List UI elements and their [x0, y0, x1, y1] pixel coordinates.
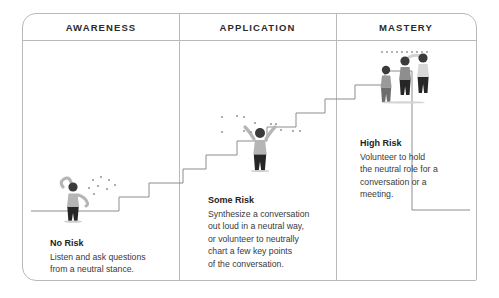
caption-some-risk: Some Risk Synthesize a conversation out …	[208, 194, 358, 270]
column-header-row: AWARENESS APPLICATION MASTERY	[23, 14, 476, 41]
caption-no-risk-title: No Risk	[50, 237, 200, 250]
caption-some-risk-line-5: of the conversation.	[208, 258, 358, 270]
column-header-application-label: APPLICATION	[220, 22, 296, 33]
caption-high-risk-line-2: the neutral role for a	[360, 163, 485, 175]
caption-some-risk-line-3: or volunteer to neutrally	[208, 233, 358, 245]
figure-mastery-right	[409, 53, 429, 93]
caption-high-risk-body: Volunteer to hold the neutral role for a…	[360, 151, 485, 201]
diagram-frame: AWARENESS APPLICATION MASTERY	[22, 13, 477, 281]
caption-no-risk-line-2: from a neutral stance.	[50, 263, 200, 275]
diagram-body: No Risk Listen and ask questions from a …	[23, 41, 476, 280]
figure-mastery-left	[381, 66, 392, 102]
speckle-dots-mastery	[381, 51, 428, 53]
column-header-mastery-label: MASTERY	[379, 22, 433, 33]
diagram-canvas: AWARENESS APPLICATION MASTERY	[0, 0, 499, 298]
caption-no-risk: No Risk Listen and ask questions from a …	[50, 237, 200, 276]
caption-high-risk: High Risk Volunteer to hold the neutral …	[360, 137, 485, 201]
column-header-application: APPLICATION	[179, 14, 336, 40]
caption-some-risk-line-4: chart a few key points	[208, 245, 358, 257]
caption-high-risk-title: High Risk	[360, 137, 485, 150]
caption-high-risk-line-3: conversation or a	[360, 176, 485, 188]
caption-some-risk-line-2: out loud in a neutral way,	[208, 220, 358, 232]
column-header-mastery: MASTERY	[336, 14, 476, 40]
figure-mastery-group	[381, 53, 430, 103]
caption-some-risk-line-1: Synthesize a conversation	[208, 208, 358, 220]
caption-some-risk-title: Some Risk	[208, 194, 358, 207]
speckle-dots-awareness	[88, 176, 116, 195]
column-header-awareness: AWARENESS	[23, 14, 179, 40]
figure-application	[245, 127, 275, 172]
figure-mastery-middle	[399, 56, 411, 95]
speckle-dots-application	[221, 115, 301, 133]
column-header-awareness-label: AWARENESS	[66, 22, 137, 33]
caption-high-risk-line-1: Volunteer to hold	[360, 151, 485, 163]
caption-no-risk-line-1: Listen and ask questions	[50, 251, 200, 263]
figure-awareness	[61, 178, 87, 223]
caption-some-risk-body: Synthesize a conversation out loud in a …	[208, 208, 358, 270]
caption-no-risk-body: Listen and ask questions from a neutral …	[50, 251, 200, 276]
caption-high-risk-line-4: meeting.	[360, 188, 485, 200]
